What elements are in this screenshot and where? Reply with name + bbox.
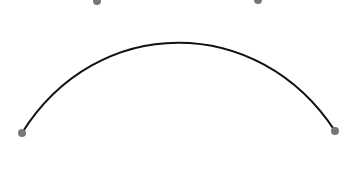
- start-point-handle[interactable]: [18, 129, 26, 137]
- bezier-curve[interactable]: [22, 43, 335, 133]
- control-point-2-handle[interactable]: [254, 0, 262, 4]
- control-point-1-handle[interactable]: [93, 0, 101, 5]
- bezier-canvas: [0, 0, 363, 173]
- handle-points: [18, 0, 339, 137]
- end-point-handle[interactable]: [331, 127, 339, 135]
